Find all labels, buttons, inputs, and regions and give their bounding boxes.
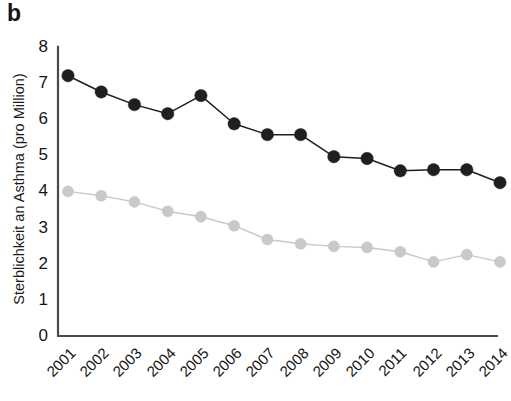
- data-point: [96, 190, 107, 201]
- plot-area: [0, 0, 511, 401]
- data-point: [428, 256, 439, 267]
- data-point: [195, 211, 206, 222]
- chart-container: b Sterblichkeit an Asthma (pro Million) …: [0, 0, 511, 401]
- series-light-series: [62, 186, 505, 268]
- data-point: [461, 249, 472, 260]
- data-point: [361, 242, 372, 253]
- data-point: [361, 152, 373, 164]
- data-point: [129, 196, 140, 207]
- data-point: [229, 220, 240, 231]
- series-layer: [62, 70, 506, 268]
- data-point: [494, 256, 505, 267]
- data-point: [295, 238, 306, 249]
- data-point: [294, 128, 306, 140]
- data-point: [62, 186, 73, 197]
- data-point: [161, 107, 173, 119]
- data-point: [328, 150, 340, 162]
- data-point: [195, 89, 207, 101]
- axis-lines: [57, 46, 498, 336]
- data-point: [162, 206, 173, 217]
- data-point: [228, 118, 240, 130]
- series-dark-series: [62, 70, 506, 189]
- data-point: [128, 98, 140, 110]
- data-point: [328, 241, 339, 252]
- data-point: [261, 128, 273, 140]
- data-point: [95, 86, 107, 98]
- data-point: [427, 164, 439, 176]
- data-point: [394, 165, 406, 177]
- data-point: [262, 234, 273, 245]
- data-point: [395, 246, 406, 257]
- data-point: [62, 70, 74, 82]
- data-point: [461, 164, 473, 176]
- data-point: [494, 177, 506, 189]
